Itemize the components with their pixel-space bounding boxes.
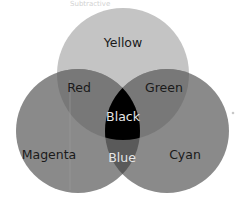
label-black: Black bbox=[106, 109, 141, 124]
label-green: Green bbox=[145, 80, 183, 95]
venn-diagram: Subtractive Yellow Red Green Black Magen… bbox=[0, 0, 245, 214]
label-cyan: Cyan bbox=[169, 147, 201, 162]
label-red: Red bbox=[67, 80, 91, 95]
label-blue: Blue bbox=[108, 150, 136, 165]
faint-caption: Subtractive bbox=[70, 0, 110, 8]
venn-svg: Subtractive Yellow Red Green Black Magen… bbox=[0, 0, 245, 214]
label-magenta: Magenta bbox=[22, 147, 77, 162]
dot-artifact bbox=[232, 112, 235, 115]
label-yellow: Yellow bbox=[103, 35, 142, 50]
